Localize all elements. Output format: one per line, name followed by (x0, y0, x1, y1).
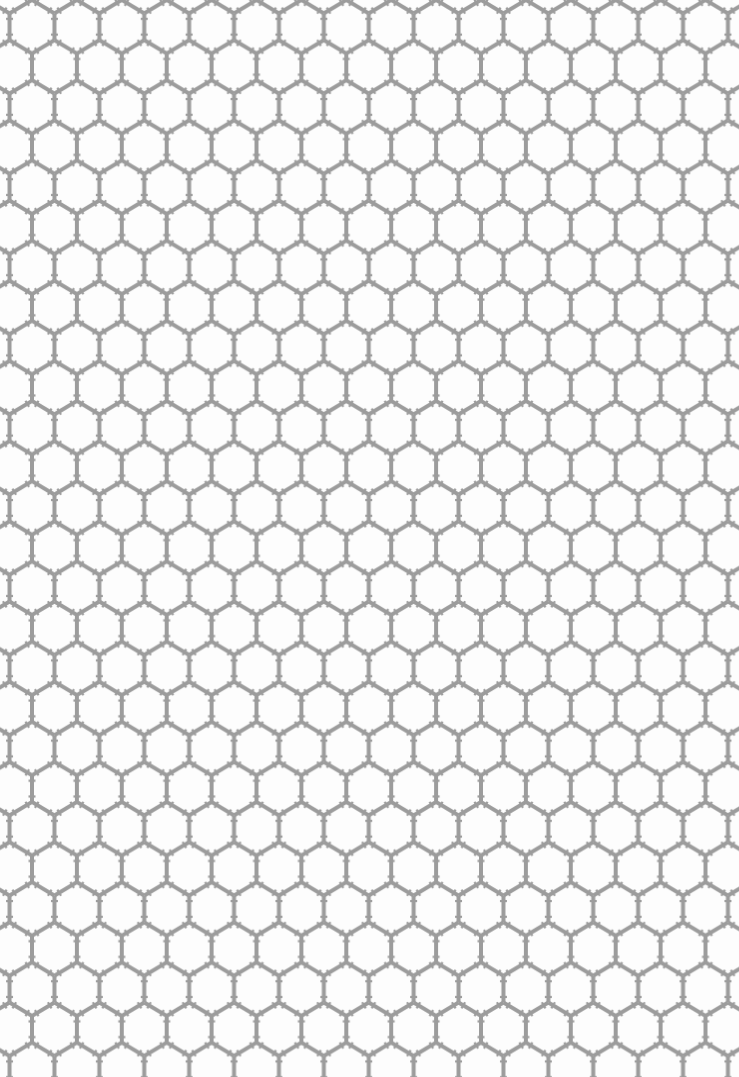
lattice-fill (0, 0, 739, 1077)
hex-lattice-canvas: Hexagonal lattice pattern (0, 0, 739, 1077)
hex-lattice-svg (0, 0, 739, 1077)
